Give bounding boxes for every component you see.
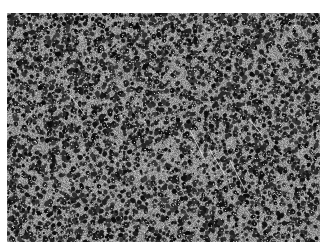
porous-texture (7, 13, 320, 242)
sem-micrograph (7, 13, 320, 242)
